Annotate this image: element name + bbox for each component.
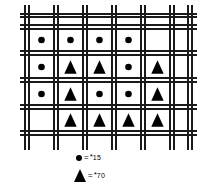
triangle-marker <box>64 113 76 127</box>
weave-marker-figure: = * 15 = * 70 <box>0 0 217 196</box>
circle-marker <box>125 91 132 98</box>
legend-item-circle: = * 15 <box>76 154 101 162</box>
triangle-marker <box>93 113 105 127</box>
triangle-marker <box>122 113 134 127</box>
circle-marker <box>38 91 45 98</box>
lattice-grid-diagram <box>0 0 217 155</box>
triangle-marker-icon <box>74 169 86 182</box>
circle-marker <box>67 37 74 44</box>
legend-equals-circle: = <box>84 154 89 162</box>
circle-marker <box>38 37 45 44</box>
circle-marker <box>125 64 132 71</box>
legend-item-triangle: = * 70 <box>74 169 105 182</box>
circle-marker <box>38 64 45 71</box>
legend: = * 15 = * 70 <box>0 152 217 196</box>
legend-asterisk-circle: * <box>90 153 93 161</box>
circle-marker <box>125 37 132 44</box>
triangle-marker <box>151 87 163 101</box>
circle-marker <box>96 91 103 98</box>
legend-asterisk-triangle: * <box>94 171 97 179</box>
triangle-marker <box>151 60 163 74</box>
circle-marker-icon <box>76 155 82 161</box>
legend-value-triangle: 70 <box>97 172 105 179</box>
triangle-marker <box>93 60 105 74</box>
triangle-marker <box>151 113 163 127</box>
triangle-marker <box>64 87 76 101</box>
legend-equals-triangle: = <box>88 172 93 180</box>
circle-marker <box>96 37 103 44</box>
triangle-marker <box>64 60 76 74</box>
legend-value-circle: 15 <box>93 154 101 161</box>
